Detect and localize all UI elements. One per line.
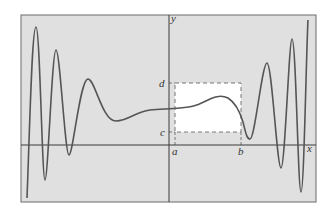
x-axis-label: x <box>306 142 312 154</box>
b-label: b <box>238 145 244 157</box>
y-axis-label: y <box>170 12 176 24</box>
c-label: c <box>160 126 165 138</box>
a-label: a <box>172 145 178 157</box>
d-label: d <box>159 77 165 89</box>
function-graph: y x d c a b <box>0 0 331 214</box>
